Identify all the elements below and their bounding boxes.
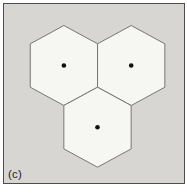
figure-label: (c) (8, 168, 22, 181)
hexagon-diagram (4, 4, 184, 183)
hex-top-left-center-dot (62, 63, 67, 68)
hex-top-right-center-dot (129, 63, 134, 68)
hex-bottom-center-center-dot (95, 125, 100, 130)
figure-panel: (c) (3, 3, 185, 184)
